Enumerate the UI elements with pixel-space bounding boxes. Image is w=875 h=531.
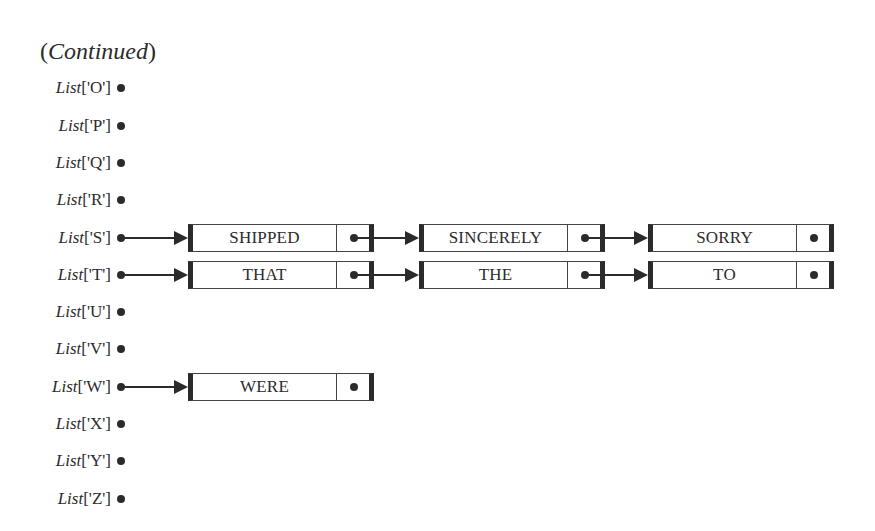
list-key: ['R'] (82, 190, 111, 209)
list-key: ['P'] (84, 116, 111, 135)
list-identifier: List (59, 116, 85, 135)
list-row-y: List['Y'] (0, 446, 875, 476)
list-row-s: List['S']SHIPPEDSINCERELYSORRY (0, 223, 875, 253)
node-divider (796, 225, 797, 251)
node-divider (796, 262, 797, 288)
list-node: TO (648, 261, 834, 289)
node-divider (336, 225, 337, 251)
list-key: ['Q'] (81, 153, 111, 172)
list-identifier: List (59, 228, 85, 247)
list-row-q: List['Q'] (0, 148, 875, 178)
list-key: ['Y'] (81, 451, 111, 470)
list-row-u: List['U'] (0, 297, 875, 327)
list-identifier: List (57, 190, 83, 209)
list-key: ['T'] (83, 265, 111, 284)
list-identifier: List (56, 302, 82, 321)
list-index-label: List['Y'] (56, 451, 111, 471)
node-value: THAT (193, 262, 336, 288)
list-row-x: List['X'] (0, 409, 875, 439)
node-divider (567, 225, 568, 251)
list-node: SINCERELY (419, 224, 605, 252)
head-pointer-dot-icon (117, 383, 125, 391)
list-row-t: List['T']THATTHETO (0, 260, 875, 290)
list-identifier: List (56, 339, 82, 358)
list-node: THAT (188, 261, 374, 289)
node-value: WERE (193, 374, 336, 400)
next-pointer-dot-icon (810, 271, 818, 279)
list-key: ['S'] (84, 228, 111, 247)
list-identifier: List (52, 377, 78, 396)
list-row-w: List['W']WERE (0, 372, 875, 402)
list-identifier: List (56, 153, 82, 172)
head-pointer-dot-icon (117, 457, 125, 465)
list-index-label: List['R'] (57, 190, 111, 210)
title-word: Continued (48, 38, 148, 64)
list-row-r: List['R'] (0, 185, 875, 215)
list-row-o: List['O'] (0, 73, 875, 103)
list-key: ['V'] (81, 339, 111, 358)
node-divider (336, 374, 337, 400)
list-index-label: List['W'] (52, 377, 111, 397)
next-pointer-dot-icon (350, 234, 358, 242)
next-pointer-dot-icon (350, 383, 358, 391)
list-index-label: List['Z'] (58, 489, 111, 509)
next-pointer-dot-icon (350, 271, 358, 279)
list-index-label: List['S'] (59, 228, 111, 248)
list-identifier: List (56, 414, 82, 433)
list-row-p: List['P'] (0, 111, 875, 141)
head-pointer-dot-icon (117, 420, 125, 428)
title-open-paren: ( (40, 38, 48, 64)
continued-heading: (Continued) (40, 36, 156, 66)
list-identifier: List (58, 489, 84, 508)
next-pointer-dot-icon (581, 271, 589, 279)
list-index-label: List['O'] (56, 78, 111, 98)
list-key: ['X'] (81, 414, 111, 433)
list-node: SHIPPED (188, 224, 374, 252)
node-value: TO (653, 262, 796, 288)
list-row-v: List['V'] (0, 334, 875, 364)
head-pointer-dot-icon (117, 159, 125, 167)
list-index-label: List['V'] (56, 339, 111, 359)
list-node: WERE (188, 373, 374, 401)
list-node: SORRY (648, 224, 834, 252)
node-value: SORRY (653, 225, 796, 251)
list-key: ['Z'] (83, 489, 111, 508)
title-close-paren: ) (148, 38, 156, 64)
list-key: ['O'] (81, 78, 111, 97)
head-pointer-dot-icon (117, 495, 125, 503)
head-pointer-dot-icon (117, 196, 125, 204)
list-row-z: List['Z'] (0, 484, 875, 514)
list-index-label: List['Q'] (56, 153, 111, 173)
head-pointer-dot-icon (117, 234, 125, 242)
list-index-label: List['P'] (59, 116, 111, 136)
head-pointer-dot-icon (117, 84, 125, 92)
head-pointer-dot-icon (117, 308, 125, 316)
next-pointer-dot-icon (581, 234, 589, 242)
head-pointer-dot-icon (117, 345, 125, 353)
head-pointer-dot-icon (117, 122, 125, 130)
node-divider (336, 262, 337, 288)
list-index-label: List['X'] (56, 414, 111, 434)
list-identifier: List (56, 451, 82, 470)
list-key: ['W'] (78, 377, 112, 396)
list-key: ['U'] (81, 302, 111, 321)
list-identifier: List (58, 265, 84, 284)
list-index-label: List['U'] (56, 302, 111, 322)
next-pointer-dot-icon (810, 234, 818, 242)
head-pointer-dot-icon (117, 271, 125, 279)
list-identifier: List (56, 78, 82, 97)
node-value: SINCERELY (424, 225, 567, 251)
node-value: SHIPPED (193, 225, 336, 251)
node-value: THE (424, 262, 567, 288)
node-divider (567, 262, 568, 288)
list-node: THE (419, 261, 605, 289)
list-index-label: List['T'] (58, 265, 111, 285)
